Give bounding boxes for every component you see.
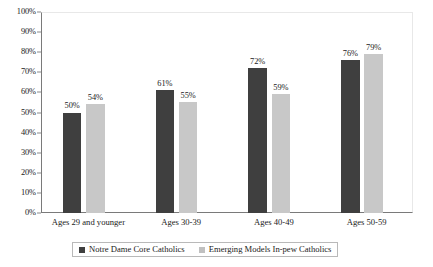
y-axis-tick-label: 90% (21, 28, 36, 36)
legend-swatch-icon (79, 247, 85, 253)
x-axis-category-label: Ages 50-59 (347, 218, 387, 227)
chart-legend: Notre Dame Core Catholics Emerging Model… (72, 242, 338, 257)
legend-item-label: Notre Dame Core Catholics (89, 245, 185, 254)
bar-value-label: 61% (157, 80, 172, 88)
plot-area: 50% 54% 61% 55% 72% 59% 76% 79% (42, 12, 413, 213)
x-axis: Ages 29 and younger Ages 30-39 Ages 40-4… (42, 215, 413, 231)
y-axis-tick-label: 70% (21, 68, 36, 76)
legend-swatch-icon (199, 247, 205, 253)
y-axis-tick-label: 60% (21, 88, 36, 96)
bar-series1 (86, 104, 105, 213)
bar-chart: 100% 90% 80% 70% 60% 50% 40% 30% 20% 10%… (0, 0, 433, 267)
bar-value-label: 79% (366, 44, 381, 52)
bar-value-label: 76% (343, 50, 358, 58)
bar-series1 (272, 94, 291, 213)
y-axis-tick-label: 0% (25, 209, 36, 217)
bar-series1 (179, 102, 198, 213)
legend-item-label: Emerging Models In-pew Catholics (209, 245, 332, 254)
y-axis-tick-label: 20% (21, 169, 36, 177)
bar-value-label: 50% (65, 102, 80, 110)
y-axis-tick-label: 30% (21, 148, 36, 156)
bar-series0 (156, 90, 175, 213)
y-axis-tick-label: 80% (21, 48, 36, 56)
bar-group: 50% 54% (42, 12, 135, 213)
legend-item: Emerging Models In-pew Catholics (199, 245, 332, 254)
bar-value-label: 59% (273, 84, 288, 92)
bar-value-label: 54% (88, 94, 103, 102)
bar-series0 (248, 68, 267, 213)
x-axis-category-label: Ages 40-49 (254, 218, 294, 227)
y-axis-tick-label: 50% (21, 108, 36, 116)
y-axis-tick-label: 40% (21, 128, 36, 136)
y-axis-tick-label: 100% (17, 8, 36, 16)
legend-item: Notre Dame Core Catholics (79, 245, 185, 254)
bar-series0 (341, 60, 360, 213)
y-axis-tick-label: 10% (21, 189, 36, 197)
bar-value-label: 55% (181, 92, 196, 100)
bar-series1 (364, 54, 383, 213)
bar-value-label: 72% (250, 58, 265, 66)
y-axis: 100% 90% 80% 70% 60% 50% 40% 30% 20% 10%… (0, 12, 41, 213)
bar-group: 72% 59% (228, 12, 321, 213)
bar-series0 (63, 113, 82, 214)
x-axis-category-label: Ages 29 and younger (52, 218, 125, 227)
x-axis-category-label: Ages 30-39 (161, 218, 201, 227)
bar-group: 61% 55% (135, 12, 228, 213)
bar-group: 76% 79% (320, 12, 413, 213)
